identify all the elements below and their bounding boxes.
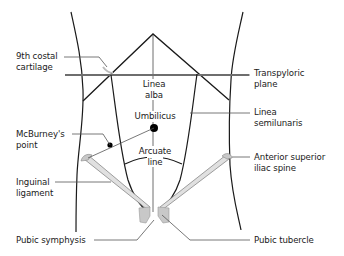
label-text: Inguinal bbox=[16, 177, 53, 188]
label-arcuate-line: Arcuate line bbox=[134, 146, 176, 167]
label-text: Transpyloric bbox=[254, 68, 304, 79]
label-text: plane bbox=[254, 79, 304, 90]
label-text: Linea bbox=[254, 107, 302, 118]
label-transpyloric-plane: Transpyloric plane bbox=[254, 68, 304, 89]
diagram-drawing bbox=[0, 0, 344, 256]
label-text: Umbilicus bbox=[132, 111, 178, 122]
abdominal-landmarks-diagram: 9th costal cartilage Transpyloric plane … bbox=[0, 0, 344, 256]
label-mcburney-point: McBurney's point bbox=[16, 129, 65, 150]
label-asis: Anterior superior iliac spine bbox=[254, 152, 325, 173]
label-text: ligament bbox=[16, 188, 53, 199]
leader-pubic-tubercle bbox=[162, 215, 250, 240]
label-9th-costal-cartilage: 9th costal cartilage bbox=[16, 51, 58, 72]
label-linea-semilunaris: Linea semilunaris bbox=[254, 107, 302, 128]
label-pubic-tubercle: Pubic tubercle bbox=[254, 235, 314, 246]
label-linea-alba: Linea alba bbox=[140, 79, 168, 100]
label-text: iliac spine bbox=[254, 163, 325, 174]
label-text: line bbox=[147, 157, 162, 168]
label-text: Pubic symphysis bbox=[16, 235, 86, 246]
leader-mcburney bbox=[72, 134, 110, 145]
leader-costal-cartilage bbox=[64, 57, 107, 67]
label-text: Arcuate bbox=[135, 146, 175, 157]
label-text: Pubic tubercle bbox=[254, 235, 314, 246]
right-body-outline bbox=[229, 12, 243, 230]
left-body-outline bbox=[71, 12, 83, 232]
label-text: semilunaris bbox=[254, 118, 302, 129]
label-pubic-symphysis: Pubic symphysis bbox=[16, 235, 86, 246]
label-inguinal-ligament: Inguinal ligament bbox=[16, 177, 53, 198]
label-text: alba bbox=[141, 90, 167, 101]
costal-cartilage-mark bbox=[103, 67, 113, 73]
label-umbilicus: Umbilicus bbox=[131, 111, 179, 122]
label-text: McBurney's bbox=[16, 129, 65, 140]
label-text: point bbox=[16, 140, 65, 151]
label-text: 9th costal bbox=[16, 51, 58, 62]
right-pubic-bone bbox=[158, 207, 169, 223]
label-text: Linea bbox=[141, 79, 167, 90]
left-pubic-bone bbox=[139, 207, 150, 223]
label-text: cartilage bbox=[16, 62, 58, 73]
label-text: Anterior superior bbox=[254, 152, 325, 163]
